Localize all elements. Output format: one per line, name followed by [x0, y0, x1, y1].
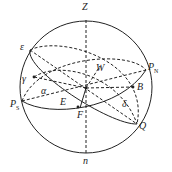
f-point [77, 106, 80, 109]
label-delta: δ [122, 99, 127, 109]
label-east: E [60, 97, 66, 107]
label-f: F [77, 110, 83, 120]
label-b: B [137, 82, 143, 92]
spoke-f [80, 88, 86, 108]
b-point [132, 86, 135, 89]
label-south-pole: PS [10, 99, 19, 111]
celestial-sphere-diagram: Z n ε PN PS W E F B Q γ α δ [0, 0, 172, 172]
label-epsilon: ε [20, 42, 24, 52]
label-nadir: n [83, 156, 88, 166]
sphere-drawing [0, 0, 172, 172]
label-gamma: γ [22, 74, 26, 84]
center-point [85, 87, 88, 90]
equator-back [30, 46, 138, 124]
label-q: Q [139, 121, 146, 131]
label-zenith: Z [82, 2, 88, 12]
label-alpha: α [41, 86, 46, 96]
label-north-pole: PN [148, 62, 158, 74]
gamma-point [33, 76, 36, 79]
label-west: W [96, 63, 104, 73]
